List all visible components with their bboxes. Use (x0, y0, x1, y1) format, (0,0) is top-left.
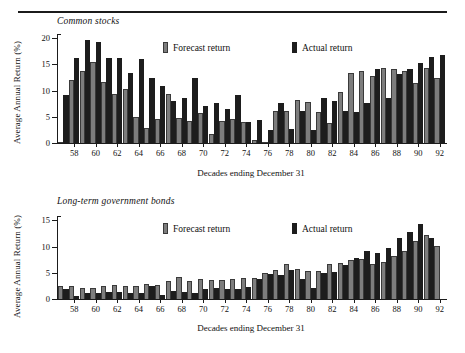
x-tick (381, 144, 392, 148)
bar-group (198, 216, 209, 299)
y-tick (52, 273, 57, 274)
bar-group (424, 34, 435, 143)
x-tick-label-cell (144, 149, 155, 161)
x-tick (316, 144, 327, 148)
bar-group (381, 34, 392, 143)
bar-group (348, 216, 359, 299)
x-tick-label: 66 (156, 305, 165, 314)
bar-group (252, 34, 263, 143)
x-tick-label-cell: 72 (219, 149, 230, 161)
bar-group (58, 216, 69, 299)
bar-group (370, 34, 381, 143)
x-tick-label-cell (273, 305, 284, 317)
bar-group (295, 34, 306, 143)
x-tick (166, 144, 177, 148)
x-tick-label-cell (295, 149, 306, 161)
bar-group (101, 34, 112, 143)
x-axis-caption-bottom: Decades ending December 31 (57, 323, 445, 333)
x-axis-caption-top: Decades ending December 31 (57, 168, 445, 178)
bar-group (316, 34, 327, 143)
bar-group (316, 216, 327, 299)
x-tick-label-cell (424, 305, 435, 317)
x-tick-label-cell (316, 305, 327, 317)
bar-group-container-bottom (58, 216, 445, 299)
x-tick-label-cell (230, 149, 241, 161)
x-tick-label-cell: 62 (112, 305, 123, 317)
plot-area-government-bonds: 586062646668707274767880828486889092 051… (57, 216, 445, 300)
bar-group (133, 216, 144, 299)
x-tick-label-cell: 68 (176, 149, 187, 161)
x-tick-label-cell (80, 305, 91, 317)
x-tick-label-cell: 86 (370, 305, 381, 317)
x-tick-label-cell: 82 (327, 305, 338, 317)
bar-group (187, 34, 198, 143)
bar-group (413, 34, 424, 143)
bar-group (198, 34, 209, 143)
x-tick-label-cell: 74 (241, 149, 252, 161)
x-tick-label: 72 (220, 149, 229, 158)
bar-group (252, 216, 263, 299)
x-tick (187, 144, 198, 148)
x-tick-label-cell: 60 (90, 305, 101, 317)
bar-forecast (434, 246, 439, 299)
x-tick-label: 82 (328, 149, 337, 158)
bar-group (230, 34, 241, 143)
bar-group (284, 216, 295, 299)
plot-area-common-stocks: 586062646668707274767880828486889092 051… (57, 34, 445, 144)
bar-group (144, 34, 155, 143)
bar-actual (440, 55, 445, 143)
x-tick (359, 300, 370, 304)
bar-group (209, 34, 220, 143)
panel-title-common-stocks: Common stocks (57, 16, 120, 26)
bar-group (402, 216, 413, 299)
x-tick-label-cell: 74 (241, 305, 252, 317)
x-tick-label: 76 (263, 305, 272, 314)
x-tick-label-cell: 68 (176, 305, 187, 317)
bar-group (209, 216, 220, 299)
x-tick-label-cell (58, 305, 69, 317)
x-tick-label-cell: 90 (413, 149, 424, 161)
x-tick-label: 90 (414, 149, 423, 158)
bar-group (144, 216, 155, 299)
bar-group (327, 216, 338, 299)
bar-group (273, 216, 284, 299)
x-tick-label-cell (381, 149, 392, 161)
x-tick-label: 60 (91, 305, 100, 314)
bar-group (90, 216, 101, 299)
x-tick-label: 62 (113, 149, 122, 158)
x-tick-label-cell (273, 149, 284, 161)
x-tick (58, 300, 69, 304)
x-label-container-bottom: 586062646668707274767880828486889092 (58, 305, 445, 317)
x-tick-label-cell: 70 (198, 149, 209, 161)
bar-group (101, 216, 112, 299)
bar-group (413, 216, 424, 299)
bar-group (273, 34, 284, 143)
bar-group (284, 34, 295, 143)
bar-group (133, 34, 144, 143)
x-tick (252, 144, 263, 148)
bar-group (166, 216, 177, 299)
x-tick (402, 144, 413, 148)
x-tick-label: 66 (156, 149, 165, 158)
bar-group (219, 34, 230, 143)
x-tick-label: 64 (134, 305, 143, 314)
x-tick-label: 92 (435, 149, 444, 158)
x-tick-label: 88 (392, 305, 401, 314)
bar-group (112, 34, 123, 143)
x-tick-label-cell: 88 (391, 305, 402, 317)
x-tick-label: 76 (263, 149, 272, 158)
bar-group-container-top (58, 34, 445, 143)
bar-group (155, 216, 166, 299)
x-tick (209, 300, 220, 304)
x-tick (316, 300, 327, 304)
x-tick-label-cell: 86 (370, 149, 381, 161)
y-tick-label: 10 (42, 242, 51, 251)
bar-group (58, 34, 69, 143)
x-tick-label-cell (58, 149, 69, 161)
x-tick-label-cell: 62 (112, 149, 123, 161)
x-tick-label-cell (123, 149, 134, 161)
x-tick (273, 300, 284, 304)
x-tick-label-cell: 78 (284, 305, 295, 317)
x-tick (58, 144, 69, 148)
x-tick-label-cell (424, 149, 435, 161)
